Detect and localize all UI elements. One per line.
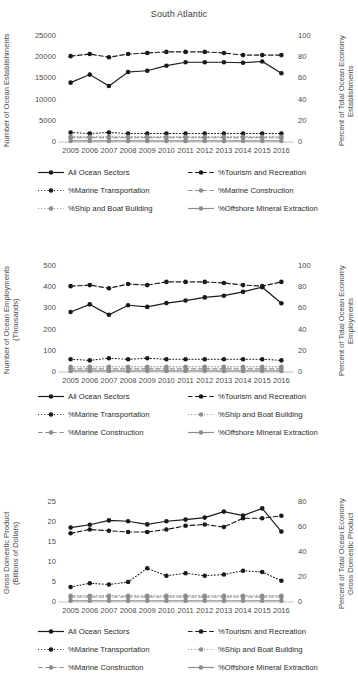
legend-swatch [38,204,64,215]
chart-panel-employments: Number of Ocean Employments(Thousands)Pe… [0,230,358,460]
chart-panel-gdp: Gross Domestic Product(Billions of Dolla… [0,455,358,688]
data-point [126,357,131,362]
data-point [145,598,150,603]
legend-item[interactable]: %Marine Construction [38,424,188,442]
legend-swatch [188,204,214,215]
data-point [145,283,150,288]
data-point [164,63,169,68]
data-point [279,301,284,306]
data-point [164,301,169,306]
data-point [222,51,227,56]
data-point [107,130,112,135]
data-point [279,369,284,374]
legend-item[interactable]: All Ocean Sectors [38,623,188,641]
data-point [87,72,92,77]
data-point [279,529,284,534]
data-point [202,134,207,139]
legend-item[interactable]: %Offshore Mineral Extraction [188,659,338,677]
data-point [260,139,265,144]
data-point [126,580,131,585]
legend-swatch [38,428,64,439]
data-point [222,134,227,139]
data-point [202,598,207,603]
legend-item[interactable]: %Marine Construction [38,659,188,677]
data-point [87,598,92,603]
data-point [241,369,246,374]
data-point [222,293,227,298]
series-line [71,52,282,57]
data-point [279,280,284,285]
data-point [126,134,131,139]
legend-row: %Ship and Boat Building%Offshore Mineral… [38,200,338,218]
data-point [279,53,284,58]
legend-item[interactable]: All Ocean Sectors [38,164,188,182]
legend-label: %Offshore Mineral Extraction [218,663,318,673]
data-point [68,310,73,315]
legend-item[interactable]: %Tourism and Recreation [188,164,338,182]
data-point [183,50,188,55]
data-point [241,139,246,144]
series-line [71,61,282,86]
legend: All Ocean Sectors%Tourism and Recreation… [38,623,338,677]
legend-label: %Marine Transportation [68,186,150,196]
data-point [107,139,112,144]
data-point [241,598,246,603]
legend-label: %Tourism and Recreation [218,392,306,402]
legend-label: %Ship and Boat Building [218,645,303,655]
data-point [164,527,169,532]
data-point [260,506,265,511]
data-point [241,60,246,65]
data-point [279,598,284,603]
legend-item[interactable]: %Ship and Boat Building [188,406,338,424]
data-point [87,581,92,586]
legend-row: All Ocean Sectors%Tourism and Recreation [38,388,338,406]
data-point [68,54,73,59]
data-point [145,369,150,374]
legend-item[interactable]: All Ocean Sectors [38,388,188,406]
series-line [71,282,282,288]
data-point [68,80,73,85]
data-point [202,139,207,144]
data-point [126,52,131,57]
data-point [183,280,188,285]
legend-label: %Offshore Mineral Extraction [218,204,318,214]
legend-item[interactable]: %Marine Transportation [38,182,188,200]
legend-item[interactable]: %Offshore Mineral Extraction [188,200,338,218]
legend-item[interactable]: %Offshore Mineral Extraction [188,424,338,442]
legend-swatch [38,663,64,674]
legend-row: All Ocean Sectors%Tourism and Recreation [38,623,338,641]
legend-item[interactable]: %Tourism and Recreation [188,388,338,406]
data-point [202,522,207,527]
data-point [107,134,112,139]
series-line [71,358,282,360]
data-point [87,358,92,363]
legend-item[interactable]: %Marine Transportation [38,641,188,659]
legend-swatch [38,627,64,638]
data-point [260,570,265,575]
data-point [164,134,169,139]
data-point [202,515,207,520]
data-point [260,598,265,603]
series-line [71,568,282,587]
data-point [87,283,92,288]
legend-item[interactable]: %Ship and Boat Building [38,200,188,218]
legend-item[interactable]: %Marine Construction [188,182,338,200]
data-point [68,598,73,603]
legend-row: %Marine Construction%Offshore Mineral Ex… [38,659,338,677]
legend-swatch [38,392,64,403]
data-point [279,578,284,583]
legend-swatch [188,186,214,197]
legend-label: %Ship and Boat Building [68,204,153,214]
legend-item[interactable]: %Marine Transportation [38,406,188,424]
plot-area-gdp [0,455,358,622]
data-point [222,60,227,65]
data-point [145,305,150,310]
data-point [183,357,188,362]
chart-panel-establishments: Number of Ocean EstablishmentsPercent of… [0,0,358,230]
data-point [87,52,92,57]
legend-item[interactable]: %Tourism and Recreation [188,623,338,641]
data-point [68,357,73,362]
data-point [279,513,284,518]
data-point [241,357,246,362]
legend-item[interactable]: %Ship and Boat Building [188,641,338,659]
